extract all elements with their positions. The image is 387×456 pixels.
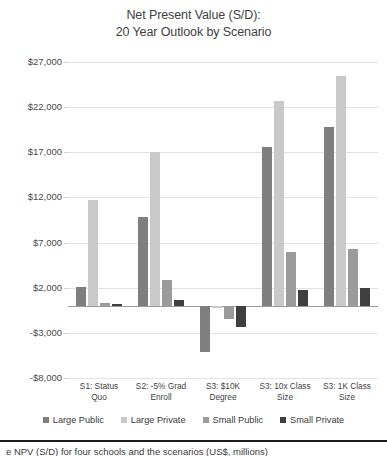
legend-swatch-icon bbox=[43, 417, 49, 423]
y-axis-tick-label: $27,000 bbox=[0, 57, 62, 67]
bar[interactable] bbox=[274, 101, 285, 306]
x-axis-category-label-line: Size bbox=[254, 392, 316, 403]
bar[interactable] bbox=[88, 200, 99, 306]
bar[interactable] bbox=[224, 306, 235, 320]
legend-item-label: Large Public bbox=[53, 414, 104, 426]
bar-group bbox=[192, 62, 254, 378]
x-axis-category-label-line: S3: 1K Class bbox=[316, 381, 378, 392]
legend-item[interactable]: Large Public bbox=[43, 414, 104, 426]
gridline bbox=[68, 378, 378, 379]
footer-caption: e NPV (S/D) for four schools and the sce… bbox=[6, 445, 387, 456]
y-axis-tick-label: $7,000 bbox=[0, 238, 62, 248]
bar[interactable] bbox=[174, 300, 185, 305]
x-axis-category-label: S1: StatusQuo bbox=[68, 381, 130, 403]
chart-title-line-2: 20 Year Outlook by Scenario bbox=[0, 24, 387, 41]
x-axis-category-label-line: Degree bbox=[192, 392, 254, 403]
legend-swatch-icon bbox=[121, 417, 127, 423]
bar[interactable] bbox=[138, 217, 149, 305]
bar[interactable] bbox=[236, 306, 247, 328]
bar[interactable] bbox=[100, 303, 111, 306]
footer-divider bbox=[0, 440, 387, 442]
chart-title: Net Present Value (S/D): 20 Year Outlook… bbox=[0, 7, 387, 41]
y-axis-tick-label: -$3,000 bbox=[0, 328, 62, 338]
plot-area: $27,000$22,000$17,000$12,000$7,000$2,000… bbox=[68, 62, 378, 378]
x-axis-category-label-line: S2: -5% Grad bbox=[130, 381, 192, 392]
y-axis-tick-label: $17,000 bbox=[0, 147, 62, 157]
legend-item-label: Large Private bbox=[131, 414, 186, 426]
legend-item[interactable]: Large Private bbox=[121, 414, 186, 426]
bar[interactable] bbox=[286, 252, 297, 306]
bar[interactable] bbox=[76, 287, 87, 306]
y-axis-tick-label: $2,000 bbox=[0, 283, 62, 293]
y-axis-tick-mark bbox=[64, 378, 68, 379]
x-axis-category-label: S3: 1K ClassSize bbox=[316, 381, 378, 403]
bar[interactable] bbox=[150, 152, 161, 305]
legend-item-label: Small Private bbox=[290, 414, 344, 426]
x-axis-category-label: S3: $10KDegree bbox=[192, 381, 254, 403]
bar-group bbox=[254, 62, 316, 378]
bar[interactable] bbox=[348, 249, 359, 306]
legend-item-label: Small Public bbox=[213, 414, 264, 426]
x-axis-category-label-line: S1: Status bbox=[68, 381, 130, 392]
y-axis-tick-label: $22,000 bbox=[0, 102, 62, 112]
x-axis-category-label: S3: 10x ClassSize bbox=[254, 381, 316, 403]
legend-item[interactable]: Small Public bbox=[203, 414, 264, 426]
bar[interactable] bbox=[298, 290, 309, 306]
bar[interactable] bbox=[112, 304, 123, 305]
legend-item[interactable]: Small Private bbox=[280, 414, 344, 426]
x-axis-category-label: S2: -5% GradEnroll bbox=[130, 381, 192, 403]
bar[interactable] bbox=[336, 76, 347, 305]
bar-group bbox=[130, 62, 192, 378]
y-axis-tick-label: $12,000 bbox=[0, 192, 62, 202]
legend-swatch-icon bbox=[280, 417, 286, 423]
y-axis-tick-label: -$8,000 bbox=[0, 373, 62, 383]
bars-layer bbox=[68, 62, 378, 378]
bar-group bbox=[68, 62, 130, 378]
x-axis-category-label-line: Size bbox=[316, 392, 378, 403]
bar[interactable] bbox=[262, 147, 273, 306]
chart-title-line-1: Net Present Value (S/D): bbox=[0, 7, 387, 24]
legend-swatch-icon bbox=[203, 417, 209, 423]
bar[interactable] bbox=[162, 280, 173, 306]
x-axis-labels: S1: StatusQuoS2: -5% GradEnrollS3: $10KD… bbox=[68, 381, 378, 409]
bar[interactable] bbox=[200, 306, 211, 352]
x-axis-category-label-line: S3: $10K bbox=[192, 381, 254, 392]
bar[interactable] bbox=[324, 127, 335, 306]
x-axis-category-label-line: Enroll bbox=[130, 392, 192, 403]
bar-group bbox=[316, 62, 378, 378]
chart-legend: Large PublicLarge PrivateSmall PublicSma… bbox=[0, 414, 387, 426]
x-axis-category-label-line: S3: 10x Class bbox=[254, 381, 316, 392]
x-axis-category-label-line: Quo bbox=[68, 392, 130, 403]
bar[interactable] bbox=[212, 306, 223, 308]
bar[interactable] bbox=[360, 288, 371, 306]
